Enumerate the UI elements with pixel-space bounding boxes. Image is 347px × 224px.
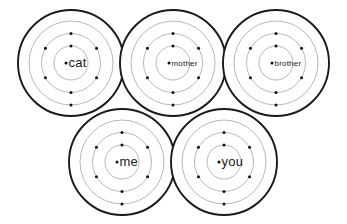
ring-dot — [172, 91, 175, 94]
node-label-me: me — [120, 154, 138, 169]
center-dot — [116, 161, 119, 164]
ring-dot — [95, 175, 98, 178]
ring-dot — [146, 146, 149, 149]
concentric-ring-diagram: catmotherbrothermeyou — [0, 0, 347, 224]
ring-dot — [172, 104, 175, 107]
ring-dot — [121, 190, 124, 193]
ring-dot — [44, 76, 47, 79]
node-group-me[interactable]: me — [69, 109, 175, 215]
ring-dot — [223, 190, 226, 193]
ring-dot — [197, 76, 200, 79]
node-group-brother[interactable]: brother — [223, 10, 329, 116]
ring-dot — [300, 76, 303, 79]
ring-dot — [197, 175, 200, 178]
node-group-you[interactable]: you — [171, 109, 277, 215]
ring-dot — [300, 47, 303, 50]
ring-dot — [275, 32, 278, 35]
center-dot — [218, 161, 221, 164]
ring-dot — [249, 76, 252, 79]
diagram-canvas: catmotherbrothermeyou — [0, 0, 347, 224]
ring-dot — [197, 47, 200, 50]
ring-dot — [248, 146, 251, 149]
ring-dot — [121, 131, 124, 134]
ring-dot — [70, 45, 73, 48]
ring-dot — [44, 47, 47, 50]
center-dot — [65, 62, 68, 65]
ring-dot — [146, 47, 149, 50]
ring-dot — [70, 104, 73, 107]
node-label-mother: mother — [172, 59, 198, 68]
node-group-mother[interactable]: mother — [120, 10, 226, 116]
ring-dot — [223, 144, 226, 147]
node-group-cat[interactable]: cat — [18, 10, 124, 116]
ring-dot — [275, 91, 278, 94]
ring-dot — [172, 45, 175, 48]
node-label-you: you — [222, 154, 244, 169]
node-label-brother: brother — [275, 59, 302, 68]
node-label-cat: cat — [69, 55, 87, 70]
center-dot — [271, 62, 274, 65]
ring-dot — [95, 76, 98, 79]
ring-dot — [223, 203, 226, 206]
ring-dot — [95, 146, 98, 149]
center-dot — [168, 62, 171, 65]
ring-dot — [121, 144, 124, 147]
ring-dot — [70, 91, 73, 94]
ring-dot — [121, 203, 124, 206]
ring-dot — [248, 175, 251, 178]
ring-dot — [146, 175, 149, 178]
ring-dot — [275, 45, 278, 48]
ring-dot — [197, 146, 200, 149]
ring-dot — [146, 76, 149, 79]
ring-dot — [275, 104, 278, 107]
ring-dot — [70, 32, 73, 35]
ring-dot — [223, 131, 226, 134]
ring-dot — [95, 47, 98, 50]
ring-dot — [172, 32, 175, 35]
ring-dot — [249, 47, 252, 50]
